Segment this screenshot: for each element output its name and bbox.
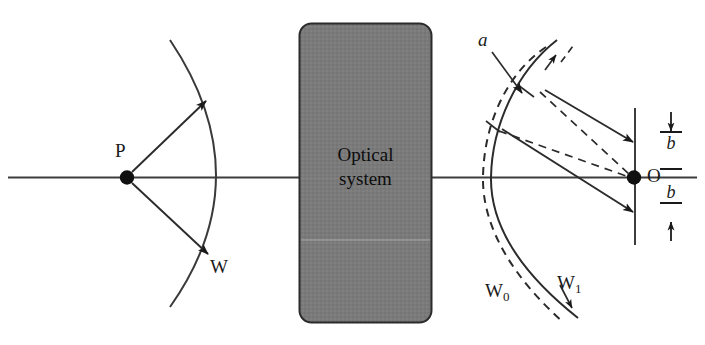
ray-solid-upper — [545, 90, 633, 142]
image-point-label: O — [647, 165, 661, 187]
object-point-dot — [120, 170, 134, 184]
reference-wavefront-label: W0 — [485, 280, 509, 305]
ray-up-from-object-point — [132, 101, 206, 172]
blur-upper-measure: b — [660, 131, 682, 153]
wavefront-tick-lower — [486, 121, 500, 132]
object-side-group — [120, 40, 216, 307]
blur-lower-rule-bottom — [660, 202, 682, 204]
aberration-label: a — [478, 29, 488, 51]
aberrated-wavefront-label-sub: 1 — [575, 281, 582, 296]
blur-lower-measure: b — [660, 182, 682, 204]
blur-center-rule — [660, 168, 682, 170]
ray-dashed-lower — [499, 131, 629, 177]
optical-system-title-line1: Optical — [299, 143, 432, 167]
object-wavefront-label: W — [210, 256, 228, 278]
ray-down-from-object-point — [132, 183, 208, 254]
wavefront-direction-arrow — [545, 55, 556, 70]
blur-upper-label: b — [667, 133, 676, 153]
aberration-leader-arrow — [492, 52, 522, 93]
image-point-dot — [627, 170, 641, 184]
aberrated-wavefront-label: W1 — [557, 272, 581, 297]
blur-center-measure — [660, 168, 682, 170]
reference-wavefront-label-base: W — [485, 280, 503, 301]
wavefront-top-dash — [561, 46, 573, 62]
optical-system-title-line2: system — [299, 167, 432, 191]
optical-system-title: Optical system — [299, 143, 432, 192]
blur-lower-label: b — [667, 182, 676, 202]
object-point-label: P — [115, 140, 126, 162]
reference-wavefront-label-sub: 0 — [503, 289, 510, 304]
ray-solid-lower — [502, 129, 633, 212]
aberrated-wavefront-label-base: W — [557, 272, 575, 293]
